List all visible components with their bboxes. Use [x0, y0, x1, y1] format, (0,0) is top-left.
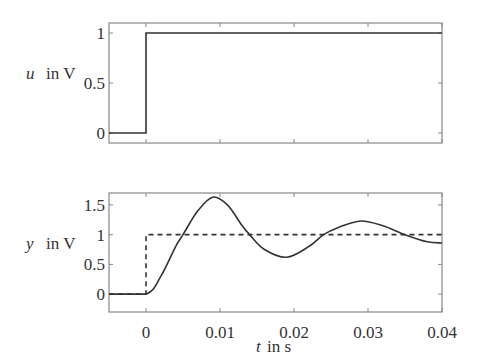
response-line — [109, 197, 442, 294]
upper-axes-u: 00.51 — [84, 23, 442, 143]
x-tick-label: 0.01 — [205, 323, 235, 342]
y-tick-label: 0 — [97, 285, 106, 304]
reference-dashed-line — [109, 235, 442, 295]
axes-frame — [109, 23, 442, 143]
x-tick-label: 0.03 — [353, 323, 383, 342]
lower-ylabel-unit: in V — [46, 234, 76, 253]
lower-ylabel-var: y — [24, 234, 34, 253]
upper-ylabel: u in V — [26, 64, 76, 83]
x-tick-label: 0.04 — [427, 323, 457, 342]
xlabel-var: t — [256, 337, 262, 356]
xlabel: t in s — [256, 337, 291, 356]
lower-axes-y: 00.010.020.030.0400.511.5 — [84, 193, 458, 342]
y-tick-label: 1.5 — [84, 196, 105, 215]
upper-ylabel-var: u — [26, 64, 35, 83]
lower-ylabel: y in V — [24, 234, 76, 253]
x-tick-label: 0 — [142, 323, 151, 342]
response-line — [109, 33, 442, 133]
xlabel-unit: in s — [267, 337, 291, 356]
figure: 00.51 00.010.020.030.0400.511.5 u in V y… — [0, 0, 482, 357]
y-tick-label: 1 — [97, 226, 106, 245]
y-tick-label: 0.5 — [84, 74, 105, 93]
upper-ylabel-unit: in V — [46, 64, 76, 83]
axes-frame — [109, 193, 442, 312]
y-tick-label: 0 — [97, 124, 106, 143]
y-tick-label: 0.5 — [84, 255, 105, 274]
y-tick-label: 1 — [97, 24, 106, 43]
